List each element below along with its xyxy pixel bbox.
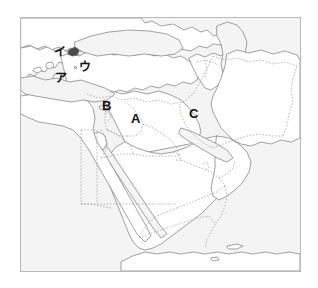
map-figure: イ ウ ア B A C — [0, 0, 318, 288]
map-label-a: A — [131, 112, 140, 125]
map-label-b: B — [102, 99, 111, 112]
map-label-i-kana: イ — [54, 46, 66, 58]
landmass-horn-of-africa — [121, 252, 300, 271]
map-label-a-kana: ア — [55, 72, 67, 84]
map-frame: イ ウ ア B A C — [20, 17, 301, 272]
city-marker-dot — [74, 66, 77, 69]
map-label-u-kana: ウ — [79, 61, 91, 73]
map-label-c: C — [189, 107, 198, 120]
island-small-3 — [211, 257, 219, 261]
